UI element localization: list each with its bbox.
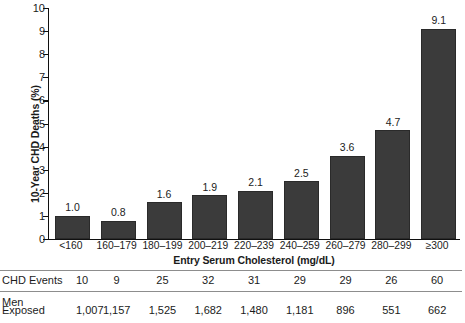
bar-group[interactable]: 2.5 [280,8,326,239]
bar-value-label: 2.1 [238,177,273,188]
table-cell: 1,157 [91,304,143,316]
bar[interactable] [55,216,90,239]
table-cell: 896 [320,304,372,316]
table-cell: 1,525 [136,304,188,316]
bar-group[interactable]: 3.6 [326,8,372,239]
table-cell: 551 [365,304,417,316]
bar-group[interactable]: 9.1 [417,8,463,239]
bar[interactable] [330,156,365,239]
x-axis-tick-labels: <160160–179180–199200–219220–239240–2592… [48,240,460,254]
table-cell: 29 [274,274,326,286]
table-rule-middle [0,291,462,292]
bar[interactable] [101,221,136,239]
bar[interactable] [192,195,227,239]
table-row: Exposed 1,0071,1571,5251,6821,4801,18189… [0,304,465,323]
x-axis-tick-label: <160 [45,240,97,251]
y-axis-tick-label: 8 [39,49,45,60]
y-axis-tick-label: 2 [39,187,45,198]
table-cell: 26 [365,274,417,286]
table-cell: 662 [411,304,463,316]
table-cell: 29 [320,274,372,286]
bar-value-label: 1.0 [55,202,90,213]
bar-group[interactable]: 1.9 [188,8,234,239]
table-row-label-chd-events: CHD Events [2,274,63,286]
y-axis-tick-label: 1 [39,210,45,221]
table-cell: 9 [91,274,143,286]
bar-value-label: 3.6 [330,142,365,153]
bar-group[interactable]: 2.1 [234,8,280,239]
bar-value-label: 1.9 [192,182,227,193]
table-cell: 31 [228,274,280,286]
table-cell: 32 [182,274,234,286]
x-axis-tick-label: 280–299 [365,240,417,251]
table-cell: 25 [136,274,188,286]
bar-series: 1.00.81.61.92.12.53.64.79.1 [48,8,460,239]
y-axis-tick-label: 10 [33,3,45,14]
x-axis-tick-label: 160–179 [91,240,143,251]
x-axis-tick-label: 240–259 [274,240,326,251]
table-cell: 1,682 [182,304,234,316]
x-axis-tick-label: ≥300 [411,240,463,251]
bar-value-label: 1.6 [147,189,182,200]
y-axis-tick-label: 5 [39,118,45,129]
bar-value-label: 2.5 [284,168,319,179]
plot-area: 012345678910 1.00.81.61.92.12.53.64.79.1 [48,8,460,239]
table-cell: 60 [411,274,463,286]
x-axis-tick-label: 260–279 [320,240,372,251]
table-cell: 1,480 [228,304,280,316]
bar-group[interactable]: 1.6 [143,8,189,239]
data-table: CHD Events 10925323129292660 Men Exposed… [0,270,465,323]
x-axis-tick-label: 220–239 [228,240,280,251]
y-axis-tick-label: 4 [39,141,45,152]
y-axis-tick-label: 6 [39,95,45,106]
chd-deaths-bar-chart-figure: 10-Year CHD Deaths (%) 012345678910 1.00… [0,0,465,323]
bar[interactable] [421,29,456,239]
y-axis-tick-label: 9 [39,26,45,37]
bar-group[interactable]: 1.0 [51,8,97,239]
bar[interactable] [238,191,273,240]
bar[interactable] [147,202,182,239]
x-axis-title: Entry Serum Cholesterol (mg/dL) [48,254,460,266]
bar-group[interactable]: 4.7 [371,8,417,239]
table-row-label-men-line2: Exposed [2,304,45,316]
x-axis-tick-label: 200–219 [182,240,234,251]
bar-value-label: 9.1 [421,15,456,26]
bar[interactable] [284,181,319,239]
bar-value-label: 0.8 [101,207,136,218]
y-axis-tick-label: 7 [39,72,45,83]
bar-value-label: 4.7 [375,117,410,128]
table-row: CHD Events 10925323129292660 [0,271,465,291]
bar[interactable] [375,130,410,239]
table-cell: 1,181 [274,304,326,316]
bar-group[interactable]: 0.8 [97,8,143,239]
y-axis-tick-label: 3 [39,164,45,175]
x-axis-tick-label: 180–199 [136,240,188,251]
